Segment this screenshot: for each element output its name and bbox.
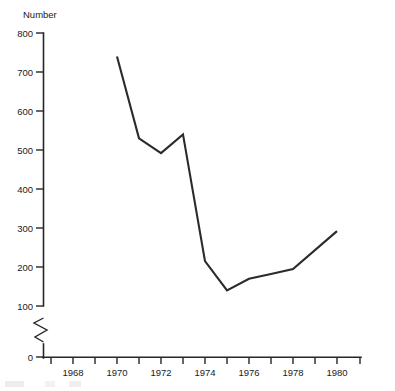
chart-figure: 800 700 600 500 400 300 200 100 0 Number — [0, 0, 395, 391]
x-tick-label-1976: 1976 — [238, 367, 259, 378]
y-tick-label-300: 300 — [17, 223, 33, 234]
y-tick-labels: 800 700 600 500 400 300 200 100 0 — [17, 28, 33, 363]
y-axis-group — [34, 33, 47, 358]
data-series-line — [117, 56, 337, 290]
x-tick-label-1970: 1970 — [106, 367, 127, 378]
y-tick-label-400: 400 — [17, 184, 33, 195]
y-tick-label-200: 200 — [17, 262, 33, 273]
x-tick-label-1978: 1978 — [282, 367, 303, 378]
x-tick-labels: 1968 1970 1972 1974 1976 1978 1980 — [62, 367, 347, 378]
x-tick-label-1972: 1972 — [150, 367, 171, 378]
y-tick-marks — [36, 33, 44, 357]
x-tick-label-1974: 1974 — [194, 367, 215, 378]
y-axis-break-icon — [34, 318, 47, 342]
line-chart-svg: 800 700 600 500 400 300 200 100 0 Number — [0, 0, 395, 391]
x-tick-label-1980: 1980 — [326, 367, 347, 378]
x-tick-label-1968: 1968 — [62, 367, 83, 378]
y-tick-label-100: 100 — [17, 301, 33, 312]
y-tick-label-800: 800 — [17, 28, 33, 39]
y-tick-label-0: 0 — [28, 352, 33, 363]
page-edge-artifact — [5, 381, 91, 387]
y-tick-label-700: 700 — [17, 67, 33, 78]
y-tick-label-600: 600 — [17, 106, 33, 117]
x-tick-marks — [51, 357, 360, 364]
y-tick-label-500: 500 — [17, 145, 33, 156]
y-axis-label: Number — [23, 9, 57, 20]
